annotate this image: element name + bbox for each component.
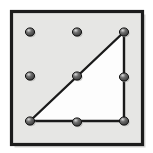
- peg-icon: [25, 28, 34, 36]
- geoboard-figure: Geoboard right triangle on a 3 by 3 peg …: [0, 0, 153, 153]
- peg-icon: [25, 72, 34, 80]
- peg-icon: [72, 118, 81, 126]
- peg-icon: [119, 117, 128, 125]
- peg-icon: [25, 117, 34, 125]
- peg-icon: [119, 28, 128, 36]
- geoboard-canvas: [0, 0, 153, 153]
- peg-icon: [72, 72, 81, 80]
- peg-icon: [72, 28, 81, 36]
- peg-icon: [119, 73, 128, 81]
